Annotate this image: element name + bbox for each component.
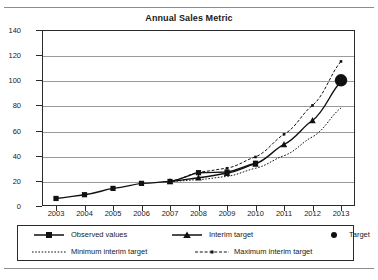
solid-triangle-key [168,229,206,241]
legend-key [168,229,206,241]
marker-small-dot [340,60,343,63]
x-axis-tick [256,206,257,211]
marker-small-dot [311,104,314,107]
y-axis-tick-label: 60 [0,128,21,136]
y-axis-tick-label: 0 [0,203,21,211]
legend-item[interactable]: Target [308,226,370,244]
marker-small-dot [197,171,200,174]
x-axis-tick [341,206,342,211]
legend-row: Observed valuesInterim targetTarget [18,226,353,244]
y-axis-tick-label: 40 [0,153,21,161]
y-axis-tick-label: 20 [0,178,21,186]
marker-small-dot [283,133,286,136]
marker-small-dot [169,180,172,183]
x-axis-tick-label: 2013 [324,210,358,218]
legend-key [193,246,231,258]
legend-item[interactable]: Maximum interim target [193,243,312,261]
chart-figure: Annual Sales Metric 020406080100120140 2… [4,11,374,264]
marker-small-dot [254,156,257,159]
legend-label: Interim target [206,231,253,239]
legend-label: Observed values [68,231,127,239]
y-axis-tick-label: 100 [0,77,21,85]
x-axis-tick [142,206,143,211]
legend-key [30,246,68,258]
legend-label: Minimum interim target [68,248,147,256]
dashed-dot-key [193,246,231,258]
legend-item[interactable]: Minimum interim target [30,243,147,261]
x-axis-tick [284,206,285,211]
marker-target-dot [335,74,347,86]
legend-row: Minimum interim targetMaximum interim ta… [18,243,353,261]
chart-page: Annual Sales Metric 020406080100120140 2… [0,0,378,280]
series-layer [42,30,355,206]
x-axis-tick [227,206,228,211]
series-target [335,74,347,86]
y-axis-tick [36,206,42,207]
y-axis-tick-label: 140 [0,27,21,35]
x-axis-tick [313,206,314,211]
y-axis-tick-label: 80 [0,102,21,110]
marker-square [82,192,87,197]
legend-key [308,229,346,241]
marker-square [53,196,58,201]
series-observed-values [53,161,258,201]
x-axis-tick [85,206,86,211]
x-axis-tick [56,206,57,211]
x-axis-tick [113,206,114,211]
legend-label: Target [346,231,370,239]
marker-small-dot [226,167,229,170]
big-dot-key [308,229,346,241]
dotted-key [30,246,68,258]
marker-square [110,186,115,191]
bottom-divider-rule [4,268,374,269]
solid-square-key [30,229,68,241]
x-axis-tick [199,206,200,211]
x-axis-tick [170,206,171,211]
y-axis-tick-label: 120 [0,52,21,60]
chart-legend: Observed valuesInterim targetTarget Mini… [17,225,354,261]
top-divider-rule [4,7,374,8]
legend-label: Maximum interim target [231,248,312,256]
marker-square [139,181,144,186]
legend-item[interactable]: Interim target [168,226,253,244]
legend-item[interactable]: Observed values [30,226,127,244]
legend-key [30,229,68,241]
marker-triangle [281,141,287,147]
chart-title: Annual Sales Metric [4,13,374,23]
